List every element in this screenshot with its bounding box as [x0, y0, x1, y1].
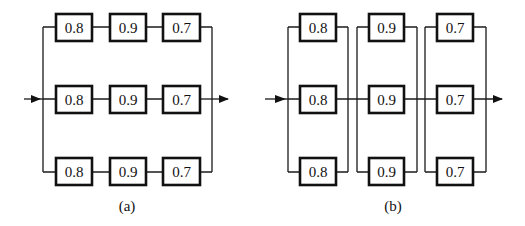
panel-a: 0.8 0.9 0.7 0.8 0.9 0.7 0.8: [24, 14, 229, 215]
component-value: 0.9: [377, 92, 396, 108]
component-value: 0.9: [119, 92, 138, 108]
component-a-r1-c3: 0.7: [163, 14, 200, 41]
component-value: 0.9: [377, 164, 396, 180]
output-arrow-icon: [219, 95, 229, 103]
input-arrow-icon: [31, 95, 41, 103]
component-value: 0.7: [446, 164, 465, 180]
component-value: 0.8: [309, 20, 328, 36]
component-value: 0.8: [309, 164, 328, 180]
component-value: 0.9: [119, 20, 138, 36]
component-a-r3-c1: 0.8: [56, 158, 92, 185]
component-value: 0.9: [119, 164, 138, 180]
component-b-s3-r3: 0.7: [437, 158, 473, 185]
component-a-r3-c2: 0.9: [110, 158, 146, 185]
component-b-s1-r2: 0.8: [300, 86, 336, 113]
component-a-r1-c1: 0.8: [56, 14, 92, 41]
component-a-r2-c1: 0.8: [56, 86, 92, 113]
component-a-r2-c3: 0.7: [163, 86, 200, 113]
output-arrow-icon: [493, 95, 503, 103]
component-value: 0.9: [377, 20, 396, 36]
component-b-s2-r1: 0.9: [369, 14, 404, 41]
component-b-s2-r2: 0.9: [369, 86, 404, 113]
component-b-s2-r3: 0.9: [369, 158, 404, 185]
component-value: 0.8: [65, 164, 84, 180]
component-a-r1-c2: 0.9: [110, 14, 146, 41]
caption-b: (b): [384, 198, 402, 215]
component-value: 0.7: [172, 164, 191, 180]
panel-b: 0.8 0.8 0.8 0.9 0.9 0.9 0.7: [265, 14, 503, 215]
component-value: 0.7: [172, 20, 191, 36]
component-value: 0.8: [65, 20, 84, 36]
input-arrow-icon: [275, 95, 286, 103]
reliability-diagram: 0.8 0.9 0.7 0.8 0.9 0.7 0.8: [0, 0, 525, 226]
component-a-r2-c2: 0.9: [110, 86, 146, 113]
component-b-s3-r2: 0.7: [437, 86, 473, 113]
component-b-s1-r3: 0.8: [300, 158, 336, 185]
caption-a: (a): [119, 198, 136, 215]
component-value: 0.7: [446, 20, 465, 36]
component-b-s1-r1: 0.8: [300, 14, 336, 41]
component-value: 0.8: [309, 92, 328, 108]
component-value: 0.7: [446, 92, 465, 108]
component-value: 0.7: [172, 92, 191, 108]
component-value: 0.8: [65, 92, 84, 108]
component-b-s3-r1: 0.7: [437, 14, 473, 41]
component-a-r3-c3: 0.7: [163, 158, 200, 185]
